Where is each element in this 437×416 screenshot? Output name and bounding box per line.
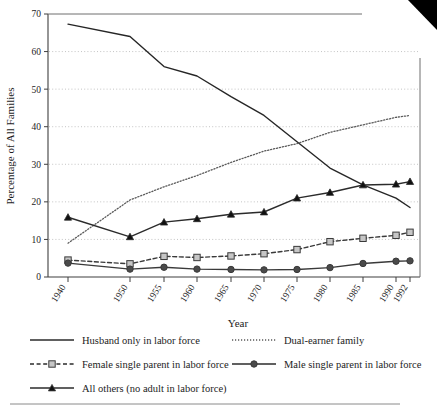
legend-label: Husband only in labor force xyxy=(82,335,200,346)
legend-label: Female single parent in labor force xyxy=(82,359,229,370)
x-axis-title: Year xyxy=(228,317,249,329)
y-tick-label: 0 xyxy=(36,272,41,282)
chart-figure: 010203040506070 194019501955196019651970… xyxy=(0,0,437,416)
y-tick-label: 40 xyxy=(32,122,42,132)
y-tick-label: 60 xyxy=(32,47,42,57)
y-tick-label: 10 xyxy=(32,235,42,245)
y-tick-label: 50 xyxy=(32,85,42,95)
y-tick-label: 70 xyxy=(32,9,42,19)
y-tick-label: 20 xyxy=(32,197,42,207)
figure-background xyxy=(0,0,437,416)
legend-label: All others (no adult in labor force) xyxy=(82,383,227,395)
legend-label: Male single parent in labor force xyxy=(284,359,422,370)
legend-label: Dual-earner family xyxy=(284,335,365,346)
y-axis-title: Percentage of All Families xyxy=(4,88,16,205)
y-tick-label: 30 xyxy=(32,160,42,170)
